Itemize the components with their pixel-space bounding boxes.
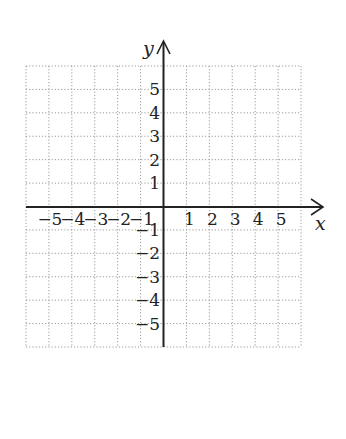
x-tick-label: 2 [207,209,218,229]
y-tick-label: −2 [135,243,160,263]
y-tick-label: 2 [149,150,160,170]
y-tick-label: 4 [149,103,160,123]
y-tick-label: −4 [135,290,160,310]
x-tick-labels: −5−4−3−2−112345 [37,209,286,229]
x-tick-label: −5 [37,209,62,229]
x-tick-label: −4 [60,209,85,229]
x-tick-label: 4 [253,209,264,229]
y-tick-label: 1 [149,173,160,193]
x-tick-label: 5 [276,209,287,229]
y-tick-label: 5 [149,79,160,99]
y-tick-label: −5 [135,314,160,334]
y-tick-label: −1 [135,220,160,240]
y-tick-label: −3 [135,267,160,287]
x-tick-label: −2 [106,209,131,229]
coordinate-plane: x y −5−4−3−2−112345 54321−1−2−3−4−5 [0,0,346,439]
y-tick-label: 3 [149,126,160,146]
coordinate-plane-svg: x y −5−4−3−2−112345 54321−1−2−3−4−5 [0,0,346,439]
y-axis-label: y [142,37,154,59]
x-tick-label: 1 [184,209,195,229]
x-tick-label: −3 [83,209,108,229]
x-tick-label: 3 [230,209,241,229]
x-axis-label: x [315,212,326,234]
